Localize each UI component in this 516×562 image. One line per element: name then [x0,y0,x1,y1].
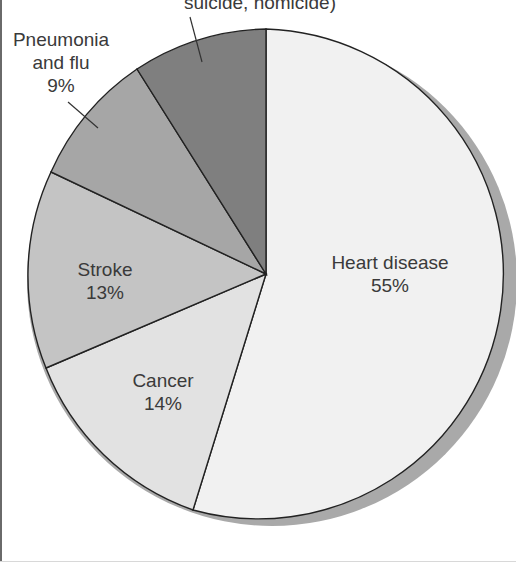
label-pneumonia-line2: and flu [2,51,120,74]
label-heart-disease: Heart disease 55% [320,251,460,297]
label-top-partial: suicide, homicide) [160,0,360,14]
label-pneumonia: Pneumonia and flu 9% [2,28,120,97]
label-stroke-pct: 13% [60,281,150,304]
label-top-text: suicide, homicide) [160,0,360,14]
label-heart-name: Heart disease [320,251,460,274]
label-pneumonia-line1: Pneumonia [2,28,120,51]
label-stroke-name: Stroke [60,258,150,281]
label-cancer-name: Cancer [118,369,208,392]
label-cancer: Cancer 14% [118,369,208,415]
label-heart-pct: 55% [320,274,460,297]
label-pneumonia-pct: 9% [2,74,120,97]
label-stroke: Stroke 13% [60,258,150,304]
label-cancer-pct: 14% [118,392,208,415]
